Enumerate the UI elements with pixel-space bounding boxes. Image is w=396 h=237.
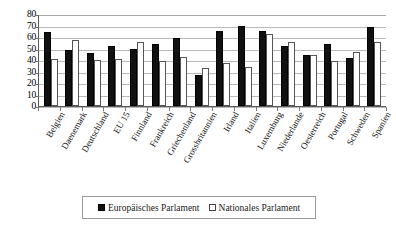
bar-group	[191, 15, 213, 106]
bar-group	[213, 15, 235, 106]
bar-europaeisches-parlament	[259, 31, 266, 106]
bar-group	[148, 15, 170, 106]
bar-group	[105, 15, 127, 106]
bar-nationales-parlament	[72, 40, 79, 106]
bar-nationales-parlament	[288, 42, 295, 106]
bar-europaeisches-parlament	[108, 46, 115, 106]
y-axis-tick-label: 70	[14, 22, 36, 32]
bar-europaeisches-parlament	[216, 31, 223, 106]
bar-nationales-parlament	[310, 55, 317, 106]
bar-group	[126, 15, 148, 106]
bar-nationales-parlament	[374, 42, 381, 106]
bar-group	[169, 15, 191, 106]
x-axis-category-label: Belgien	[44, 110, 67, 139]
legend-label: Europäisches Parlament	[108, 203, 200, 213]
x-axis-category-labels: BelgienDaenemarkDeutschlandEU 15Finnland…	[38, 110, 386, 188]
plot-area	[38, 15, 386, 107]
bar-nationales-parlament	[266, 34, 273, 106]
bar-europaeisches-parlament	[346, 58, 353, 106]
y-axis-tick-label: 80	[14, 10, 36, 20]
x-axis-category-label: EU 15	[111, 110, 131, 135]
bar-group	[83, 15, 105, 106]
bar-chart: 80706050403020100 BelgienDaenemarkDeutsc…	[0, 0, 396, 237]
x-axis-category-label: Spanien	[370, 110, 393, 140]
bars-layer	[39, 15, 386, 106]
bar-europaeisches-parlament	[44, 32, 51, 106]
y-axis-tick-label: 40	[14, 56, 36, 66]
bar-europaeisches-parlament	[87, 53, 94, 106]
bar-group	[299, 15, 321, 106]
bar-nationales-parlament	[331, 61, 338, 106]
y-axis-tick-label: 20	[14, 79, 36, 89]
bar-group	[256, 15, 278, 106]
bar-nationales-parlament	[245, 67, 252, 106]
chart-legend: Europäisches Parlament Nationales Parlam…	[82, 196, 316, 219]
bar-group	[342, 15, 364, 106]
y-axis-tick-label: 10	[14, 91, 36, 101]
bar-nationales-parlament	[180, 57, 187, 106]
bar-europaeisches-parlament	[367, 27, 374, 106]
hollow-square-icon	[209, 204, 216, 211]
bar-nationales-parlament	[51, 59, 58, 106]
bar-group	[320, 15, 342, 106]
bar-europaeisches-parlament	[281, 46, 288, 106]
bar-group	[62, 15, 84, 106]
bar-europaeisches-parlament	[195, 75, 202, 106]
bar-nationales-parlament	[115, 59, 122, 106]
y-axis-tick-label: 30	[14, 68, 36, 78]
bar-nationales-parlament	[223, 63, 230, 106]
x-axis-category-label: Irland	[221, 110, 240, 134]
legend-item-europaeisches-parlament: Europäisches Parlament	[98, 203, 200, 213]
y-axis-tick-label: 0	[14, 102, 36, 112]
bar-group	[277, 15, 299, 106]
bar-group	[234, 15, 256, 106]
bar-europaeisches-parlament	[238, 26, 245, 107]
legend-label: Nationales Parlament	[219, 203, 301, 213]
bar-group	[363, 15, 385, 106]
y-axis-tick-labels: 80706050403020100	[14, 11, 36, 107]
bar-europaeisches-parlament	[130, 49, 137, 107]
x-axis-category-label: Italien	[243, 110, 263, 135]
y-axis-tick-label: 60	[14, 33, 36, 43]
bar-europaeisches-parlament	[173, 38, 180, 106]
plot-wrapper: 80706050403020100 BelgienDaenemarkDeutsc…	[0, 0, 396, 190]
filled-square-icon	[98, 204, 105, 211]
bar-group	[40, 15, 62, 106]
bar-europaeisches-parlament	[152, 44, 159, 106]
bar-europaeisches-parlament	[303, 55, 310, 106]
bar-nationales-parlament	[159, 61, 166, 106]
bar-europaeisches-parlament	[65, 50, 72, 106]
y-axis-tick-label: 50	[14, 45, 36, 55]
bar-europaeisches-parlament	[324, 44, 331, 106]
bar-nationales-parlament	[137, 42, 144, 106]
bar-nationales-parlament	[202, 68, 209, 106]
bar-nationales-parlament	[94, 60, 101, 106]
bar-nationales-parlament	[353, 52, 360, 106]
legend-item-nationales-parlament: Nationales Parlament	[209, 203, 301, 213]
